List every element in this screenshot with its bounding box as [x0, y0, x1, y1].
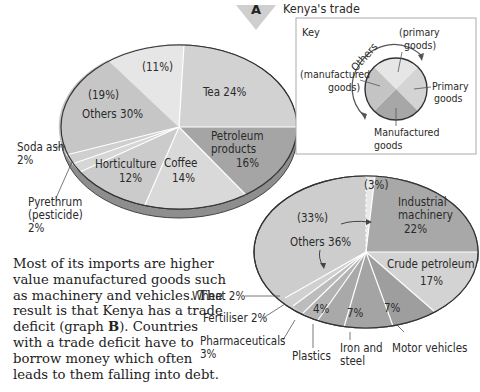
label-soda-ash: Soda ash [17, 140, 64, 154]
label-others-primary: (3%) [364, 178, 389, 192]
label-others: Others 36% [290, 235, 351, 249]
label-iron-steel: Iron and [340, 341, 383, 355]
paragraph-bold: B [108, 319, 119, 334]
legend-key: Key Others (primarygoods) Primarygoods (… [296, 18, 476, 154]
label-others-primary: (11%) [142, 60, 173, 74]
label-coffee-pct: 14% [172, 171, 195, 185]
label-horticulture: Horticulture [95, 157, 156, 171]
body-paragraph: Most of its imports are higher value man… [13, 256, 228, 382]
key-label-primary-others: (primarygoods) [399, 26, 440, 51]
exports-pie-chart: (11%) (19%) Others 30% Tea 24% Petroleum… [17, 45, 297, 235]
label-coffee: Coffee [164, 156, 197, 170]
label-others-manufactured: (19%) [88, 88, 119, 102]
label-petroleum: Petroleum [211, 129, 263, 143]
figure-title: Kenya's trade [283, 1, 360, 16]
label-motor-vehicles-pct: 7% [384, 301, 401, 315]
label-others: Others 30% [82, 107, 143, 121]
label-crude-petroleum: Crude petroleum [387, 257, 474, 271]
label-crude-petroleum-pct: 17% [420, 274, 443, 288]
label-petroleum-2: products [211, 142, 256, 156]
label-plastics-pct: 4% [313, 302, 330, 316]
label-industrial-machinery-pct: 22% [404, 222, 427, 236]
label-pyrethrum-2: (pesticide) [28, 208, 83, 222]
figure-marker: A [251, 2, 261, 17]
label-pyrethrum: Pyrethrum [28, 195, 82, 209]
label-horticulture-pct: 12% [119, 171, 142, 185]
label-petroleum-pct: 16% [236, 156, 259, 170]
label-plastics: Plastics [292, 349, 331, 363]
label-motor-vehicles: Motor vehicles [392, 341, 467, 355]
label-iron-steel-pct: 7% [347, 306, 364, 320]
label-soda-ash-pct: 2% [17, 153, 34, 167]
key-title: Key [302, 26, 320, 39]
label-pyrethrum-pct: 2% [28, 221, 45, 235]
label-iron-steel-2: steel [340, 354, 365, 368]
label-others-manufactured: (33%) [297, 211, 328, 225]
label-industrial-machinery-2: machinery [398, 208, 453, 222]
label-tea: Tea 24% [202, 85, 247, 99]
label-industrial-machinery: Industrial [398, 195, 447, 209]
